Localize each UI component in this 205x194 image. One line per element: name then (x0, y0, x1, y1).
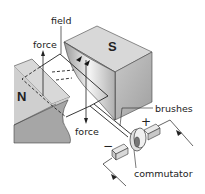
dc-motor-diagram: field force force brushes commutator N S… (0, 0, 205, 194)
field-label: field (51, 15, 72, 26)
commutator-leader-line (134, 150, 136, 168)
force-top-label: force (33, 39, 57, 50)
commutator-label: commutator (134, 168, 193, 179)
minus-sign: − (103, 139, 113, 153)
plus-sign: + (141, 115, 151, 129)
south-pole-label: S (108, 39, 117, 54)
force-bottom-label: force (75, 126, 99, 137)
brushes-label: brushes (155, 103, 193, 114)
current-arrow-right-icon (176, 130, 182, 136)
north-pole-label: N (17, 89, 26, 104)
